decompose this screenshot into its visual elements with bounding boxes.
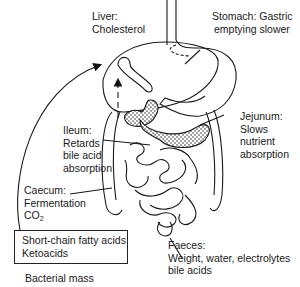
esophagus <box>167 0 176 45</box>
products-box: Short-chain fatty acids Ketoacids <box>14 230 128 264</box>
stomach-label: Stomach: Gastric emptying slower <box>212 10 293 35</box>
jejunum-leader <box>200 115 224 125</box>
liver <box>103 42 218 112</box>
small-intestine <box>125 143 197 227</box>
ileum-label: Ileum: Retards bile acid absorption <box>63 124 112 174</box>
descending-colon <box>206 110 223 211</box>
bacterial-mass-label: Bacterial mass <box>25 272 94 285</box>
liver-label: Liver: Cholesterol <box>92 10 145 35</box>
jejunum-label: Jejunum: Slows nutrient absorption <box>240 110 289 160</box>
gallbladder <box>118 57 152 92</box>
faeces-label: Faeces: Weight, water, electrolytes bile… <box>168 239 290 277</box>
caecum-label: Caecum: Fermentation CO2 <box>24 184 86 226</box>
stomach-leader <box>185 50 200 64</box>
jejunum <box>140 120 209 148</box>
